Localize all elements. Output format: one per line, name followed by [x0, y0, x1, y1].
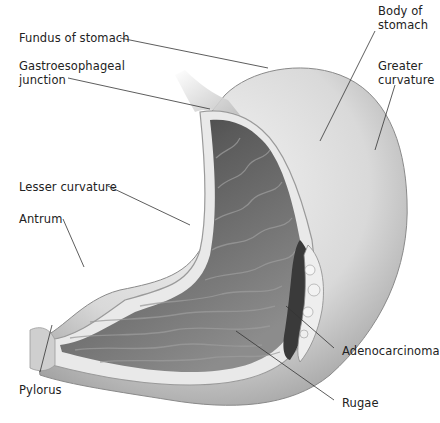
- label-pylorus: Pylorus: [19, 383, 62, 397]
- gastric-mucosa: [60, 120, 302, 372]
- label-antrum: Antrum: [19, 212, 62, 226]
- leader-line-lesser-curvature: [108, 186, 190, 225]
- pylorus: [30, 328, 55, 371]
- leader-line-antrum: [63, 219, 84, 267]
- label-ge-junction: Gastroesophageal junction: [19, 59, 125, 87]
- label-body: Body of stomach: [378, 4, 428, 32]
- label-rugae: Rugae: [342, 396, 379, 410]
- label-adenocarcinoma: Adenocarcinoma: [342, 344, 440, 358]
- label-greater-curvature: Greater curvature: [378, 59, 434, 87]
- label-lesser-curvature: Lesser curvature: [19, 180, 117, 194]
- label-fundus: Fundus of stomach: [19, 31, 130, 45]
- leader-line-fundus: [120, 38, 268, 68]
